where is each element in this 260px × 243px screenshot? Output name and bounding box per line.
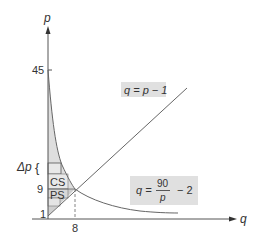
ps-label: PS [50, 189, 65, 201]
demand-equation-rhs: − 2 [177, 184, 193, 196]
demand-equation-numerator: 90 [157, 178, 169, 189]
supply-equation: q = p − 1 [124, 84, 167, 96]
tick-label-8: 8 [72, 222, 78, 234]
supply-demand-diagram: p q 45 9 1 8 Δp { CS PS q = p − 1 q = 90… [0, 0, 260, 243]
tick-label-1: 1 [40, 208, 46, 220]
demand-equation-lhs: q = [136, 184, 152, 196]
cs-label: CS [50, 176, 65, 188]
demand-equation-denominator: p [159, 192, 166, 203]
delta-p-label: Δp [16, 160, 32, 174]
x-axis-label: q [240, 212, 247, 226]
y-axis-label: p [43, 11, 51, 25]
brace-icon: { [35, 160, 40, 175]
x-axis-arrow-icon [229, 217, 237, 222]
y-axis-arrow-icon [46, 26, 51, 34]
delta-p-rect [48, 163, 61, 174]
tick-label-45: 45 [32, 64, 44, 76]
tick-label-9: 9 [37, 183, 43, 195]
